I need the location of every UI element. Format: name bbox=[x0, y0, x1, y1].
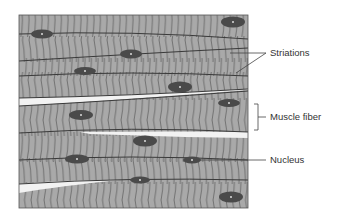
nucleus-icon bbox=[31, 30, 53, 39]
nucleus-icon bbox=[168, 82, 192, 93]
label-nucleus: Nucleus bbox=[270, 154, 304, 165]
muscle-tissue-diagram bbox=[0, 0, 347, 217]
nucleus-icon bbox=[120, 50, 142, 59]
muscle-fiber-bracket bbox=[254, 104, 266, 130]
nucleus-icon bbox=[65, 155, 89, 164]
nucleus-icon bbox=[218, 99, 240, 107]
label-striations: Striations bbox=[270, 47, 310, 58]
nucleus-icon bbox=[183, 157, 201, 164]
nucleus-icon bbox=[74, 67, 96, 75]
nucleus-icon bbox=[219, 192, 243, 203]
nucleus-icon bbox=[221, 17, 245, 28]
label-muscle-fiber: Muscle fiber bbox=[270, 111, 321, 122]
nucleus-icon bbox=[130, 177, 150, 184]
nucleus-icon bbox=[133, 136, 157, 147]
tissue-block bbox=[19, 15, 252, 208]
nucleus-icon bbox=[69, 110, 93, 120]
